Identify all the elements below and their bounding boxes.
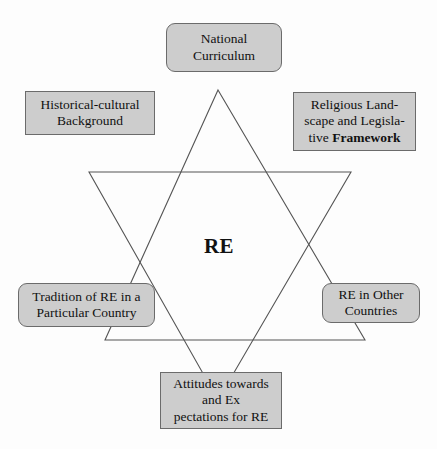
star-of-david-diagram: RE National Curriculum Historical-cultur… — [0, 0, 437, 449]
node-attitudes-expectations-label: Attitudes towards and Ex pectations for … — [165, 376, 277, 425]
node-religious-landscape-line2: scape and Legisla- — [304, 113, 404, 128]
node-historical-cultural-background-label: Historical-cultural Background — [30, 97, 150, 130]
node-religious-landscape-line1: Religious Land- — [311, 97, 398, 112]
node-religious-landscape-legislative-framework[interactable]: Religious Land-scape and Legisla-tive Fr… — [293, 92, 416, 151]
node-religious-landscape-line3-bold: Framework — [332, 130, 400, 145]
node-national-curriculum[interactable]: National Curriculum — [166, 23, 282, 72]
node-religious-landscape-label: Religious Land-scape and Legisla-tive Fr… — [298, 97, 411, 146]
node-re-in-other-countries[interactable]: RE in Other Countries — [322, 283, 420, 323]
center-label-re: RE — [183, 234, 255, 259]
node-tradition-of-re-in-a-particular-country[interactable]: Tradition of RE in a Particular Country — [18, 283, 155, 327]
node-re-in-other-countries-label: RE in Other Countries — [327, 287, 415, 320]
node-attitudes-expectations-for-re[interactable]: Attitudes towards and Ex pectations for … — [160, 372, 282, 429]
node-historical-cultural-background[interactable]: Historical-cultural Background — [25, 91, 155, 135]
node-tradition-of-re-label: Tradition of RE in a Particular Country — [23, 289, 150, 322]
node-national-curriculum-label: National Curriculum — [171, 31, 277, 64]
node-religious-landscape-line3-normal: tive — [309, 130, 333, 145]
